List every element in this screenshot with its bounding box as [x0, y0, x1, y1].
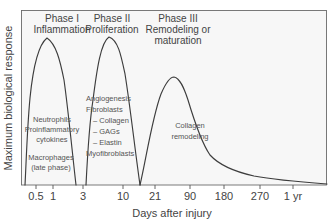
annotation-elastin: – Elastin — [93, 138, 122, 147]
annotation-proinflammatory: Proinflammatory — [25, 125, 80, 134]
x-tick-label-10-days: 10 — [117, 190, 129, 202]
phase-2-heading-line2: Proliferation — [85, 24, 138, 35]
x-axis-tick-marks — [36, 185, 293, 189]
annotation-collagen: – Collagen — [93, 116, 129, 125]
annotation-cytokines: cytokines — [36, 135, 68, 144]
annotation-angiogenesis: Angiogenesis — [86, 94, 131, 103]
x-tick-label-180-days: 180 — [215, 190, 233, 202]
phase-1-heading-line1: Phase I — [45, 13, 79, 24]
phase-3-heading-line1: Phase III — [158, 13, 197, 24]
annotation-gags: – GAGs — [93, 127, 120, 136]
x-tick-label-1-day: 1 — [50, 190, 56, 202]
phase-2-heading-line1: Phase II — [94, 13, 131, 24]
annotation-macrophages-line2: (late phase) — [31, 163, 71, 172]
phase-3-heading-line3: maturation — [154, 35, 201, 46]
y-axis-title: Maximum biological response — [2, 26, 14, 171]
x-tick-label-21-days: 21 — [149, 190, 161, 202]
chart-canvas: Maximum biological response Phase I Infl… — [0, 0, 334, 224]
annotation-macrophages: Macrophages (late phase) — [28, 153, 74, 172]
annotation-fibroblasts: Fibroblasts — [86, 105, 123, 114]
wound-healing-phases-figure: Maximum biological response Phase I Infl… — [0, 0, 334, 224]
annotation-neutrophils: Neutrophils — [33, 115, 71, 124]
phase-1-heading-line2: Inflammation — [33, 24, 90, 35]
x-tick-label-3-days: 3 — [80, 190, 86, 202]
annotation-macrophages-line1: Macrophages — [28, 153, 74, 162]
annotation-myofibroblasts: Myofibroblasts — [86, 149, 135, 158]
x-tick-label-90-days: 90 — [184, 190, 196, 202]
x-tick-label-1-year: 1 yr — [284, 190, 303, 202]
annotation-collagen-remodeling-line2: remodeling — [171, 132, 208, 141]
annotation-collagen-remodeling-line1: Collagen — [175, 121, 205, 130]
x-axis-tick-labels: 0.5 1 3 10 21 90 180 270 1 yr — [28, 190, 302, 202]
phase-3-heading-line2: Remodeling or — [145, 24, 211, 35]
x-tick-label-270-days: 270 — [251, 190, 269, 202]
x-tick-label-0-5-days: 0.5 — [28, 190, 43, 202]
x-axis-title: Days after injury — [132, 207, 212, 219]
